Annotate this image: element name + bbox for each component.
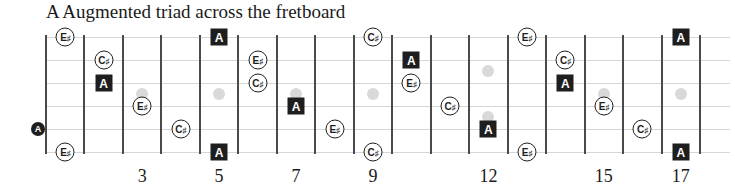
sharp-icon: ♯ (67, 149, 71, 158)
fret-line (199, 35, 201, 154)
chord-tone-marker: E♯ (56, 28, 75, 47)
chord-tone-marker: E♯ (517, 143, 536, 162)
fret-line (276, 35, 278, 154)
sharp-icon: ♯ (452, 103, 456, 112)
note-name: E (252, 55, 258, 66)
chord-tone-marker: C♯ (94, 51, 113, 70)
fret-line (391, 35, 393, 154)
string-line (46, 83, 730, 84)
root-note-marker: A (211, 29, 228, 46)
chord-tone-marker: E♯ (133, 97, 152, 116)
sharp-icon: ♯ (413, 80, 417, 89)
fret-line (122, 35, 124, 154)
chord-tone-marker: C♯ (363, 28, 382, 47)
note-name: A (215, 30, 224, 44)
sharp-icon: ♯ (375, 34, 379, 43)
string-line (46, 152, 730, 153)
sharp-icon: ♯ (567, 57, 571, 66)
chord-tone-marker: C♯ (556, 51, 575, 70)
sharp-icon: ♯ (259, 80, 263, 89)
string-line (46, 129, 730, 130)
note-name: A (215, 145, 224, 159)
fret-line (622, 35, 624, 154)
note-name: E (599, 101, 605, 112)
fret-number-label: 5 (215, 166, 224, 187)
fret-line (661, 35, 663, 154)
fretboard: E♯AC♯E♯AC♯E♯AC♯AC♯E♯AE♯AC♯E♯AC♯E♯AC♯E♯AC… (0, 0, 735, 194)
note-name: E (522, 32, 528, 43)
root-note-marker: A (480, 121, 497, 138)
note-name: A (484, 122, 493, 136)
note-name: A (676, 145, 685, 159)
note-name: C (252, 78, 259, 89)
sharp-icon: ♯ (605, 103, 609, 112)
fret-line (160, 35, 162, 154)
sharp-icon: ♯ (183, 126, 187, 135)
root-note-marker: A (672, 144, 689, 161)
fret-number-label: 7 (292, 166, 301, 187)
chord-tone-marker: C♯ (171, 120, 190, 139)
sharp-icon: ♯ (528, 149, 532, 158)
chord-tone-marker: C♯ (633, 120, 652, 139)
chord-tone-marker: E♯ (517, 28, 536, 47)
fret-number-label: 17 (672, 166, 690, 187)
note-name: E (406, 78, 412, 89)
note-name: A (292, 99, 301, 113)
fret-line (314, 35, 316, 154)
note-name: A (561, 76, 570, 90)
fret-line (430, 35, 432, 154)
note-name: E (522, 147, 528, 158)
note-name: E (60, 32, 66, 43)
inlay-dot (482, 65, 494, 77)
fret-line (584, 35, 586, 154)
root-note-marker: A (557, 75, 574, 92)
note-name: E (60, 147, 66, 158)
inlay-dot (367, 88, 379, 100)
note-name: E (137, 101, 143, 112)
sharp-icon: ♯ (528, 34, 532, 43)
sharp-icon: ♯ (336, 126, 340, 135)
fret-line (83, 35, 85, 154)
sharp-icon: ♯ (144, 103, 148, 112)
sharp-icon: ♯ (259, 57, 263, 66)
root-note-marker: A (95, 75, 112, 92)
chord-tone-marker: C♯ (363, 143, 382, 162)
note-name: C (368, 32, 375, 43)
fret-line (507, 35, 509, 154)
sharp-icon: ♯ (67, 34, 71, 43)
root-note-marker: A (672, 29, 689, 46)
chord-tone-marker: E♯ (248, 51, 267, 70)
chord-tone-marker: E♯ (594, 97, 613, 116)
string-line (46, 37, 730, 38)
note-name: A (676, 30, 685, 44)
sharp-icon: ♯ (375, 149, 379, 158)
string-line (46, 60, 730, 61)
note-name: C (445, 101, 452, 112)
nut-line (45, 35, 47, 154)
fret-number-label: 12 (479, 166, 497, 187)
root-note-marker: A (211, 144, 228, 161)
fret-number-label: 3 (138, 166, 147, 187)
sharp-icon: ♯ (644, 126, 648, 135)
note-name: A (99, 76, 108, 90)
fret-line (468, 35, 470, 154)
sharp-icon: ♯ (106, 57, 110, 66)
note-name: C (368, 147, 375, 158)
inlay-dot (213, 88, 225, 100)
fret-line (237, 35, 239, 154)
note-name: C (98, 55, 105, 66)
note-name: C (637, 124, 644, 135)
open-string-root-marker: A (31, 122, 45, 136)
chord-tone-marker: C♯ (440, 97, 459, 116)
inlay-dot (675, 88, 687, 100)
note-name: A (35, 124, 42, 134)
fret-number-label: 15 (595, 166, 613, 187)
chord-tone-marker: C♯ (248, 74, 267, 93)
chord-tone-marker: E♯ (56, 143, 75, 162)
root-note-marker: A (403, 52, 420, 69)
fret-line (353, 35, 355, 154)
fret-line (699, 35, 701, 154)
note-name: C (175, 124, 182, 135)
note-name: C (560, 55, 567, 66)
note-name: E (329, 124, 335, 135)
